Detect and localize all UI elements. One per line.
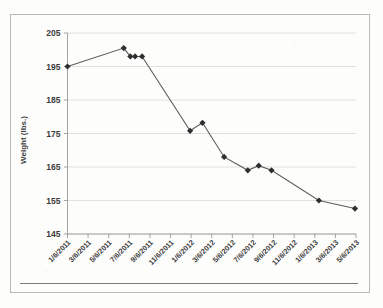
y-axis-tick-label: 145	[46, 229, 60, 239]
x-axis-tick-labels: 1/6/20113/6/20115/6/20117/6/20119/6/2011…	[46, 238, 361, 267]
scanned-page: Weight (lbs.) 145155165175185195205 1/6/…	[0, 0, 383, 308]
y-axis-tick-labels: 145155165175185195205	[46, 28, 60, 239]
y-axis-tick-label: 175	[46, 129, 60, 139]
x-axis-ticks-group	[68, 234, 357, 238]
y-axis-tick-label: 185	[46, 95, 60, 105]
x-axis-tick-label: 5/6/2013	[334, 238, 360, 264]
y-axis-title-text: Weight (lbs.)	[19, 116, 28, 164]
data-point-marker	[256, 163, 262, 169]
data-point-marker	[187, 128, 193, 134]
data-point-marker	[132, 53, 138, 59]
gridlines-group	[68, 33, 357, 234]
data-point-marker	[199, 120, 205, 126]
y-axis-tick-label: 165	[46, 162, 60, 172]
weight-line-chart: Weight (lbs.) 145155165175185195205 1/6/…	[0, 0, 383, 308]
data-point-marker	[64, 63, 70, 69]
y-axis-tick-label: 155	[46, 196, 60, 206]
data-point-marker	[268, 167, 274, 173]
y-axis-title: Weight (lbs.)	[19, 116, 28, 164]
weight-series-markers	[64, 45, 358, 212]
data-point-marker	[221, 154, 227, 160]
data-point-marker	[352, 205, 358, 211]
y-axis-ticks-group	[64, 33, 68, 234]
y-axis-tick-label: 205	[46, 28, 60, 38]
y-axis-tick-label: 195	[46, 62, 60, 72]
data-point-marker	[245, 167, 251, 173]
weight-series-line	[68, 48, 355, 208]
data-point-marker	[139, 53, 145, 59]
data-point-marker	[316, 197, 322, 203]
